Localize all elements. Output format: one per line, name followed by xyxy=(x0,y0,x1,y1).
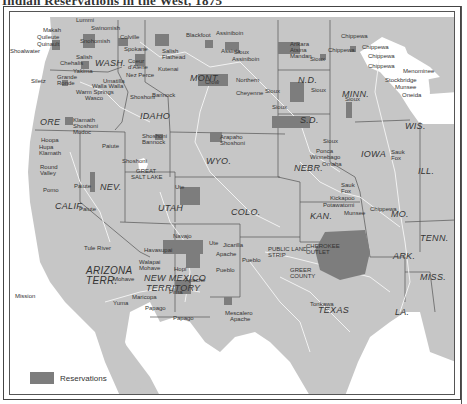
place-label: Northern xyxy=(236,77,259,83)
place-label: Havasupai xyxy=(144,247,172,253)
place-label: Mission xyxy=(15,293,35,299)
state-label-la: LA. xyxy=(395,308,409,317)
place-label: Shoalwater xyxy=(10,48,40,54)
outer-frame-right xyxy=(461,6,462,404)
state-label-ore: ORE xyxy=(40,118,60,127)
place-label: Winnebago xyxy=(310,154,340,160)
place-label: Papago xyxy=(145,305,166,311)
place-label: Mandan xyxy=(290,53,312,59)
state-label-sd: S.D. xyxy=(300,116,319,125)
place-label: Munsee xyxy=(395,84,416,90)
state-label-nd: N.D. xyxy=(298,76,317,85)
place-label: Yuma xyxy=(113,300,128,306)
place-label: Tule River xyxy=(84,245,111,251)
state-label-kan: KAN. xyxy=(310,212,332,221)
place-label: Valley xyxy=(40,170,56,176)
state-label-idaho: IDAHO xyxy=(140,112,170,121)
place-label: Wasco xyxy=(85,95,103,101)
place-label: Chippewa xyxy=(368,63,395,69)
place-label: Quileute xyxy=(37,34,59,40)
state-label-wyo: WYO. xyxy=(206,157,231,166)
place-label: Modoc xyxy=(73,129,91,135)
place-label: Fox xyxy=(391,155,401,161)
legend-label: Reservations xyxy=(60,374,107,383)
place-label: Paiute xyxy=(74,183,91,189)
place-label: Sioux xyxy=(234,49,249,55)
place-label: Pomo xyxy=(43,187,59,193)
state-label-wis: WIS. xyxy=(405,122,426,131)
place-label: Blackfoot xyxy=(186,32,211,38)
place-label: Chippewa xyxy=(362,44,389,50)
place-label: Shoshoni xyxy=(122,158,147,164)
place-label: SALT LAKE xyxy=(131,174,162,180)
state-label-nebr: NEBR. xyxy=(294,164,323,173)
place-label: Lummi xyxy=(76,17,94,23)
place-label: Hopi xyxy=(174,266,186,272)
map-panel: WASH. ORE IDAHO MONT. WYO. N.D. S.D. NEB… xyxy=(9,11,455,395)
state-label-iowa: IOWA xyxy=(361,150,386,159)
place-label: COUNTY xyxy=(290,273,315,279)
state-label-utah: UTAH xyxy=(158,204,183,213)
place-label: STRIP xyxy=(268,252,286,258)
place-label: Menominee xyxy=(403,68,434,74)
place-label: Stockbridge xyxy=(385,77,417,83)
place-label: Bannock xyxy=(152,92,175,98)
place-label: Flathead xyxy=(162,54,185,60)
place-label: Munsee xyxy=(344,210,365,216)
place-label: d'Alene xyxy=(128,64,148,70)
state-label-ark: ARK. xyxy=(393,252,415,261)
place-label: Hoopa xyxy=(41,137,59,143)
place-label: Mohave xyxy=(113,276,134,282)
place-label: Fox xyxy=(341,188,351,194)
place-label: Pueblo xyxy=(216,267,235,273)
place-label: Sioux xyxy=(310,56,325,62)
place-label: Jicarilla xyxy=(223,242,243,248)
state-label-colo: COLO. xyxy=(231,208,261,217)
state-label-ill: ILL. xyxy=(418,167,434,176)
state-label-arizona: ARIZONA xyxy=(86,266,133,275)
place-label: Colville xyxy=(120,34,139,40)
place-label: Assiniboin xyxy=(216,30,243,36)
place-label: Maricopa xyxy=(132,294,157,300)
place-label: Crow xyxy=(205,79,219,85)
place-label: Chehalis xyxy=(60,60,83,66)
place-label: Navajo xyxy=(173,233,192,239)
place-label: Bannock xyxy=(142,139,165,145)
place-label: Apache xyxy=(216,251,236,257)
place-label: Ute xyxy=(175,184,184,190)
place-label: Nez Perce xyxy=(126,72,154,78)
legend: Reservations xyxy=(30,372,107,384)
place-label: Spokane xyxy=(124,46,148,52)
reservation-swatch xyxy=(30,372,54,384)
place-label: Pueblo xyxy=(242,257,261,263)
state-label-texas: TEXAS xyxy=(318,306,349,315)
place-label: Apache xyxy=(185,277,205,283)
place-label: Mohave xyxy=(139,265,160,271)
place-label: Makah xyxy=(43,27,61,33)
place-label: Sioux xyxy=(272,104,287,110)
place-label: Kickapoo xyxy=(330,195,355,201)
place-label: Sioux xyxy=(265,88,280,94)
place-label: Omaha xyxy=(322,161,342,167)
place-label: Quinault xyxy=(37,41,59,47)
place-label: Snohomish xyxy=(80,38,110,44)
place-label: Cheyenne xyxy=(236,90,263,96)
place-label: Sioux xyxy=(345,96,360,102)
place-label: Chippewa xyxy=(368,53,395,59)
place-label: Chippewa xyxy=(328,47,355,53)
place-label: Sioux xyxy=(311,87,326,93)
place-label: Apache xyxy=(230,316,250,322)
place-label: Chippewa xyxy=(370,206,397,212)
place-label: Swinomish xyxy=(91,25,120,31)
place-label: Chippewa xyxy=(341,33,368,39)
place-label: Ronde xyxy=(57,80,75,86)
place-label: Paiute xyxy=(79,206,96,212)
place-label: Paiute xyxy=(102,143,119,149)
state-label-nev: NEV. xyxy=(100,183,122,192)
place-label: Shoshoni xyxy=(220,140,245,146)
place-label: Assiniboin xyxy=(232,56,259,62)
place-label: Oneida xyxy=(402,92,421,98)
place-label: Papago xyxy=(173,315,194,321)
place-label: Siletz xyxy=(31,78,46,84)
place-label: Sioux xyxy=(323,138,338,144)
